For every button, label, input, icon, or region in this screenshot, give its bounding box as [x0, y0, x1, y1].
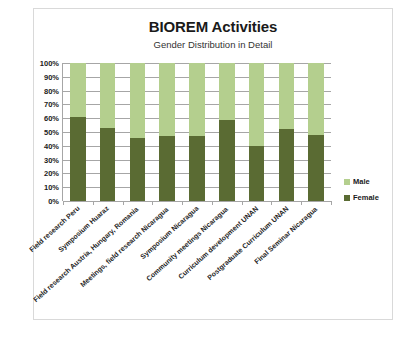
bar-segment-female[interactable] [70, 117, 85, 201]
x-axis-category-label: Symposium Huaraz [57, 205, 110, 254]
x-axis-category-label: Meetings, field research Nicaragua [79, 205, 170, 288]
bar-segment-male[interactable] [279, 63, 294, 129]
bar-segment-female[interactable] [249, 146, 264, 201]
bar-segment-female[interactable] [159, 136, 174, 201]
legend-label-female: Female [353, 193, 379, 202]
bar-segment-male[interactable] [219, 63, 234, 120]
x-axis-tickmark [242, 201, 243, 205]
x-axis-tickmark [63, 201, 64, 205]
y-axis-tick-label: 80% [44, 86, 59, 95]
bar-column[interactable] [308, 63, 323, 201]
legend-label-male: Male [353, 177, 370, 186]
y-axis-tick-label: 100% [40, 59, 59, 68]
y-axis-tick-label: 20% [44, 169, 59, 178]
chart-frame: BIOREM Activities Gender Distribution in… [33, 8, 393, 320]
x-axis-tickmark [93, 201, 94, 205]
bar-column[interactable] [70, 63, 85, 201]
bar-segment-female[interactable] [100, 128, 115, 201]
bar-segment-female[interactable] [308, 135, 323, 201]
bar-column[interactable] [159, 63, 174, 201]
bar-segment-male[interactable] [249, 63, 264, 146]
x-axis-category-label: Symposium Nicaragua [139, 205, 200, 261]
x-axis-category-label: Field research Austria, Hungary, Romania [32, 205, 140, 303]
bar-column[interactable] [279, 63, 294, 201]
bar-segment-male[interactable] [159, 63, 174, 136]
x-axis-category-label: Curriculum development UNAN [177, 205, 259, 280]
bar-column[interactable] [130, 63, 145, 201]
y-axis-tick-label: 0% [48, 197, 59, 206]
legend-swatch-male-icon [344, 179, 350, 185]
y-axis-tick-label: 70% [44, 100, 59, 109]
legend-item-male: Male [344, 177, 392, 186]
bar-column[interactable] [219, 63, 234, 201]
y-axis-tick-label: 90% [44, 72, 59, 81]
plot-area: 0%10%20%30%40%50%60%70%80%90%100% [63, 63, 331, 201]
bar-segment-male[interactable] [308, 63, 323, 135]
y-axis-tick-label: 10% [44, 183, 59, 192]
y-axis-tick-label: 40% [44, 141, 59, 150]
gridline [63, 201, 331, 202]
chart-subtitle: Gender Distribution in Detail [34, 39, 392, 50]
x-axis-tickmark [182, 201, 183, 205]
bar-column[interactable] [249, 63, 264, 201]
x-axis-category-label: Final Seminar Nicaragua [253, 205, 318, 265]
x-axis-category-label: Postgraduate Curriculum UNAN [206, 205, 290, 281]
legend-item-female: Female [344, 193, 392, 202]
x-axis-tickmark [152, 201, 153, 205]
x-axis-tickmark [301, 201, 302, 205]
bar-column[interactable] [189, 63, 204, 201]
x-axis-category-label: Field research Peru [28, 205, 81, 254]
legend-swatch-female-icon [344, 195, 350, 201]
y-axis-tick-label: 50% [44, 128, 59, 137]
bar-segment-female[interactable] [279, 129, 294, 201]
bar-segment-male[interactable] [130, 63, 145, 138]
bar-segment-male[interactable] [70, 63, 85, 117]
bar-segment-male[interactable] [100, 63, 115, 128]
x-axis-tickmark [271, 201, 272, 205]
x-axis-tickmark [212, 201, 213, 205]
chart-title: BIOREM Activities [34, 18, 392, 35]
bars-layer [63, 63, 331, 201]
y-axis-tick-label: 60% [44, 114, 59, 123]
bar-segment-male[interactable] [189, 63, 204, 136]
x-axis-tickmark [331, 201, 332, 205]
chart-legend: Male Female [344, 177, 392, 209]
x-axis-category-label: Community meetings Nicaragua [145, 205, 229, 282]
x-axis-tickmark [123, 201, 124, 205]
bar-segment-female[interactable] [130, 138, 145, 201]
bar-segment-female[interactable] [219, 120, 234, 201]
bar-column[interactable] [100, 63, 115, 201]
bar-segment-female[interactable] [189, 136, 204, 201]
y-axis-tick-label: 30% [44, 155, 59, 164]
